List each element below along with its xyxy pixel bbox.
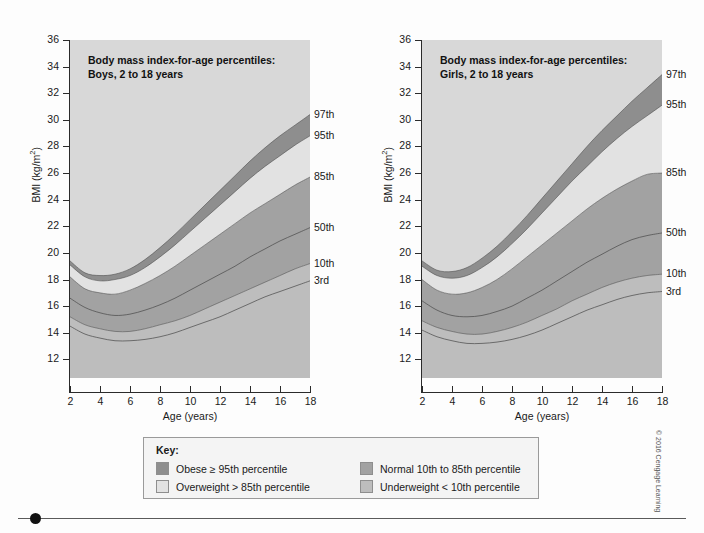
y-tick-22: 22 — [63, 226, 70, 227]
y-tick-label-34: 34 — [47, 60, 59, 72]
x-tick-6: 6 — [482, 386, 483, 393]
footer-bullet-dot — [30, 513, 41, 524]
y-tick-label-16: 16 — [47, 299, 59, 311]
y-tick-14: 14 — [415, 333, 422, 334]
copyright-notice: © 2016 Cengage Learning — [655, 430, 662, 512]
legend-title: Key: — [156, 444, 179, 456]
legend-swatch-underweight — [360, 480, 373, 493]
y-tick-12: 12 — [63, 359, 70, 360]
x-tick-4: 4 — [100, 386, 101, 393]
y-axis-title-main: BMI (kg/m — [382, 155, 394, 203]
percentile-label-85th: 85th — [314, 170, 334, 182]
x-tick-label-12: 12 — [215, 395, 227, 407]
x-axis-title-boys: Age (years) — [70, 410, 310, 422]
y-axis-title-exponent: 2 — [28, 151, 37, 155]
x-tick-label-16: 16 — [627, 395, 639, 407]
y-tick-label-12: 12 — [47, 352, 59, 364]
x-tick-label-10: 10 — [537, 395, 549, 407]
plot-area-girls — [422, 40, 662, 378]
legend-swatch-obese — [156, 462, 169, 475]
y-tick-24: 24 — [63, 200, 70, 201]
x-tick-18: 18 — [310, 386, 311, 393]
y-tick-16: 16 — [415, 306, 422, 307]
legend-item-obese: Obese ≥ 95th percentile — [156, 462, 287, 475]
y-tick-label-28: 28 — [47, 139, 59, 151]
y-tick-14: 14 — [63, 333, 70, 334]
y-tick-label-30: 30 — [47, 113, 59, 125]
y-tick-26: 26 — [63, 173, 70, 174]
y-tick-30: 30 — [415, 120, 422, 121]
x-tick-label-12: 12 — [567, 395, 579, 407]
y-tick-label-20: 20 — [47, 246, 59, 258]
percentile-label-85th: 85th — [666, 166, 686, 178]
y-tick-12: 12 — [415, 359, 422, 360]
y-tick-32: 32 — [63, 93, 70, 94]
percentile-label-50th: 50th — [314, 221, 334, 233]
y-tick-label-14: 14 — [47, 326, 59, 338]
legend-item-normal: Normal 10th to 85th percentile — [360, 462, 521, 475]
y-tick-label-32: 32 — [399, 86, 411, 98]
x-tick-label-6: 6 — [128, 395, 134, 407]
x-tick-12: 12 — [572, 386, 573, 393]
chart-panel-boys: 12141618202224262830323436 2468101214161… — [18, 18, 338, 418]
x-tick-label-14: 14 — [245, 395, 257, 407]
y-tick-label-20: 20 — [399, 246, 411, 258]
x-tick-8: 8 — [512, 386, 513, 393]
y-tick-label-24: 24 — [47, 193, 59, 205]
y-tick-label-18: 18 — [47, 273, 59, 285]
x-tick-8: 8 — [160, 386, 161, 393]
legend-item-overweight: Overweight > 85th percentile — [156, 480, 310, 493]
y-axis-title-exponent: 2 — [380, 151, 389, 155]
y-tick-36: 36 — [63, 40, 70, 41]
x-tick-label-6: 6 — [480, 395, 486, 407]
legend-item-underweight: Underweight < 10th percentile — [360, 480, 520, 493]
panel-title-line2: Girls, 2 to 18 years — [440, 67, 627, 81]
panel-title-line1: Body mass index-for-age percentiles: — [440, 53, 627, 67]
x-tick-label-4: 4 — [450, 395, 456, 407]
figure-page: 12141618202224262830323436 2468101214161… — [0, 0, 704, 533]
y-tick-label-36: 36 — [47, 33, 59, 45]
y-tick-label-12: 12 — [399, 352, 411, 364]
x-tick-6: 6 — [130, 386, 131, 393]
legend-swatch-normal — [360, 462, 373, 475]
footer-divider — [18, 518, 686, 519]
percentile-label-97th: 97th — [314, 108, 334, 120]
x-tick-16: 16 — [632, 386, 633, 393]
chart-legend-key: Key: Obese ≥ 95th percentile Overweight … — [143, 437, 539, 499]
x-tick-label-8: 8 — [510, 395, 516, 407]
y-tick-34: 34 — [63, 67, 70, 68]
x-tick-10: 10 — [542, 386, 543, 393]
y-tick-24: 24 — [415, 200, 422, 201]
chart-panel-girls: 12141618202224262830323436 2468101214161… — [370, 18, 690, 418]
x-tick-label-16: 16 — [275, 395, 287, 407]
percentile-label-10th: 10th — [314, 257, 334, 269]
y-tick-label-28: 28 — [399, 139, 411, 151]
y-tick-label-26: 26 — [399, 166, 411, 178]
x-tick-4: 4 — [452, 386, 453, 393]
x-tick-label-10: 10 — [185, 395, 197, 407]
y-tick-20: 20 — [63, 253, 70, 254]
y-tick-label-24: 24 — [399, 193, 411, 205]
legend-label-overweight: Overweight > 85th percentile — [176, 481, 310, 493]
percentile-label-3rd: 3rd — [666, 285, 681, 297]
x-tick-label-14: 14 — [597, 395, 609, 407]
bmi-percentile-chart-boys — [70, 40, 310, 378]
x-tick-18: 18 — [662, 386, 663, 393]
y-axis-title-girls: BMI (kg/m2) — [380, 115, 394, 235]
y-tick-label-14: 14 — [399, 326, 411, 338]
bmi-percentile-chart-girls — [422, 40, 662, 378]
x-tick-label-2: 2 — [420, 395, 426, 407]
y-tick-30: 30 — [63, 120, 70, 121]
y-tick-label-22: 22 — [47, 219, 59, 231]
x-tick-16: 16 — [280, 386, 281, 393]
y-tick-label-16: 16 — [399, 299, 411, 311]
y-tick-28: 28 — [63, 146, 70, 147]
y-tick-label-32: 32 — [47, 86, 59, 98]
y-tick-label-34: 34 — [399, 60, 411, 72]
x-tick-label-2: 2 — [68, 395, 74, 407]
x-tick-2: 2 — [422, 386, 423, 393]
x-tick-label-18: 18 — [305, 395, 317, 407]
y-axis-title-tail: ) — [30, 147, 42, 151]
panel-title-line2: Boys, 2 to 18 years — [88, 67, 275, 81]
legend-swatch-overweight — [156, 480, 169, 493]
